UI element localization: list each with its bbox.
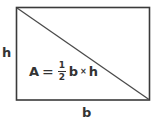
fraction-numerator: 1 — [59, 61, 65, 71]
formula-variable-a: A — [29, 64, 39, 79]
formula-height-h: h — [89, 64, 98, 79]
fraction-denominator: 2 — [59, 72, 65, 82]
base-label: b — [82, 106, 91, 119]
formula-fraction-one-half: 1 2 — [58, 61, 66, 82]
area-formula: A = 1 2 b × h — [29, 61, 98, 82]
area-of-triangle-diagram: h b A = 1 2 b × h — [0, 0, 159, 125]
formula-base-b: b — [69, 64, 78, 79]
formula-equals-sign: = — [42, 64, 54, 80]
formula-multiply-sign: × — [80, 67, 87, 76]
height-label: h — [2, 46, 11, 59]
